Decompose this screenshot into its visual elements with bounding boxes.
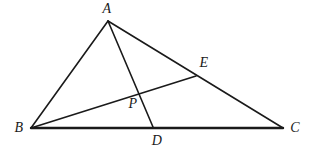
cevian-ad <box>108 21 153 127</box>
cevian-be <box>31 76 196 128</box>
segment-layer <box>31 21 283 128</box>
point-label-e: E <box>200 56 209 70</box>
side-ac <box>108 21 283 128</box>
point-label-d: D <box>152 134 162 148</box>
point-label-c: C <box>290 121 300 135</box>
geometry-figure: A B C D E P <box>0 0 315 152</box>
side-ab <box>31 21 108 128</box>
point-label-p: P <box>129 97 138 111</box>
point-label-b: B <box>15 121 24 135</box>
point-label-a: A <box>103 2 112 16</box>
triangle-diagram-svg <box>0 0 315 152</box>
